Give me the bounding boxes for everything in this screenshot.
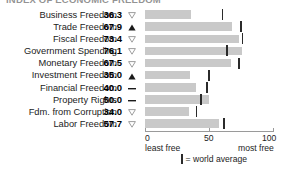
triangle-down-outline-icon	[128, 36, 136, 43]
chart-row: Financial Freedom40.0	[0, 82, 285, 94]
legend-label: = world average	[186, 154, 247, 164]
triangle-down-outline-icon	[128, 61, 136, 68]
x-axis-ticks	[145, 128, 273, 131]
trend-down-icon	[126, 33, 138, 45]
trend-flat-icon	[126, 82, 138, 94]
row-plot	[145, 69, 273, 81]
row-plot	[145, 57, 273, 69]
world-average-marker	[196, 106, 198, 117]
axis-tick-label: 50	[204, 133, 214, 143]
economic-freedom-bar-chart: INDEX OF ECONOMIC FREEDOM Business Freed…	[0, 0, 285, 170]
bar	[145, 35, 239, 44]
trend-down-icon	[126, 57, 138, 69]
triangle-down-outline-icon	[128, 109, 136, 116]
bar	[145, 119, 219, 128]
row-value: 76.1	[103, 45, 122, 57]
triangle-down-outline-icon	[128, 48, 136, 55]
row-label: Financial Freedom	[0, 82, 117, 94]
chart-title: INDEX OF ECONOMIC FREEDOM	[6, 0, 236, 5]
world-average-marker	[222, 9, 224, 20]
row-plot	[145, 9, 273, 21]
row-value: 36.3	[103, 9, 122, 21]
chart-row: Investment Freedom35.0	[0, 69, 285, 81]
row-label: Investment Freedom	[0, 69, 117, 81]
triangle-down-outline-icon	[128, 12, 136, 19]
chart-row: Fiscal Freedom73.4	[0, 33, 285, 45]
trend-flat-icon	[126, 94, 138, 106]
row-value: 35.0	[103, 69, 122, 81]
axis-least-free-label: least free	[145, 143, 180, 153]
row-plot	[145, 45, 273, 57]
dash-icon	[128, 97, 136, 104]
row-plot	[145, 94, 273, 106]
world-average-marker	[206, 82, 208, 93]
legend: = world average	[181, 153, 247, 165]
row-value: 73.4	[103, 33, 122, 45]
axis-tick	[145, 128, 146, 132]
axis-tick	[273, 128, 274, 132]
axis-tick	[209, 128, 210, 132]
bar	[145, 47, 242, 56]
trend-up-icon	[126, 21, 138, 33]
dash-icon	[128, 85, 136, 92]
chart-row: Property Rights50.0	[0, 94, 285, 106]
world-average-marker	[240, 21, 242, 32]
axis-most-free-label: most free	[238, 143, 274, 153]
world-average-marker	[208, 70, 210, 81]
bar	[145, 83, 196, 92]
world-average-marker	[238, 58, 240, 69]
row-value: 67.5	[103, 57, 122, 69]
bar	[145, 59, 231, 68]
chart-rows: Business Freedom36.3Trade Freedom67.9Fis…	[0, 9, 285, 130]
row-value: 34.0	[103, 106, 122, 118]
row-label: Labor Freedom	[0, 118, 117, 130]
trend-down-icon	[126, 9, 138, 21]
bar	[145, 107, 189, 116]
axis-tick-label: 100	[262, 133, 276, 143]
world-average-marker	[200, 94, 202, 105]
row-label: Fdm. from Corruption	[0, 106, 117, 118]
chart-row: Monetary Freedom67.5	[0, 57, 285, 69]
row-value: 67.9	[103, 21, 122, 33]
row-plot	[145, 82, 273, 94]
row-value: 40.0	[103, 82, 122, 94]
trend-down-icon	[126, 45, 138, 57]
row-plot	[145, 106, 273, 118]
chart-row: Government Spending76.1	[0, 45, 285, 57]
row-value: 57.7	[103, 118, 122, 130]
triangle-down-outline-icon	[128, 121, 136, 128]
triangle-up-filled-icon	[128, 24, 136, 31]
triangle-up-filled-icon	[128, 73, 136, 80]
trend-down-icon	[126, 106, 138, 118]
row-label: Trade Freedom	[0, 21, 117, 33]
world-average-marker	[242, 33, 244, 44]
chart-row: Business Freedom36.3	[0, 9, 285, 21]
chart-row: Trade Freedom67.9	[0, 21, 285, 33]
row-value: 50.0	[103, 94, 122, 106]
row-plot	[145, 33, 273, 45]
bar	[145, 22, 232, 31]
trend-up-icon	[126, 69, 138, 81]
bar	[145, 71, 190, 80]
axis-tick-label: 0	[145, 133, 150, 143]
row-plot	[145, 21, 273, 33]
chart-row: Fdm. from Corruption34.0	[0, 106, 285, 118]
world-average-marker-icon	[181, 154, 183, 164]
trend-down-icon	[126, 118, 138, 130]
row-label: Monetary Freedom	[0, 57, 117, 69]
row-label: Government Spending	[0, 45, 117, 57]
row-label: Fiscal Freedom	[0, 33, 117, 45]
row-label: Business Freedom	[0, 9, 117, 21]
bar	[145, 10, 191, 19]
world-average-marker	[226, 45, 228, 56]
row-label: Property Rights	[0, 94, 117, 106]
